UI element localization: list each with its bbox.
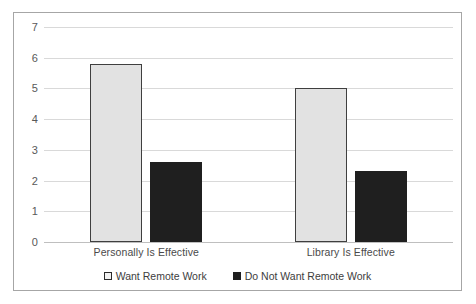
x-axis-category-labels: Personally Is EffectiveLibrary Is Effect… — [44, 246, 453, 264]
y-axis-tick-label: 2 — [32, 175, 38, 187]
y-axis-tick-label: 0 — [32, 236, 38, 248]
chart-legend: Want Remote WorkDo Not Want Remote Work — [14, 270, 461, 282]
plot-area: 01234567 — [44, 27, 453, 242]
bar-do-not-want-remote-work — [150, 162, 202, 242]
x-axis-category-label: Personally Is Effective — [94, 246, 199, 258]
y-axis-tick-label: 3 — [32, 144, 38, 156]
y-axis-tick-label: 1 — [32, 205, 38, 217]
legend-item[interactable]: Want Remote Work — [104, 270, 207, 282]
legend-label: Want Remote Work — [116, 270, 207, 282]
y-axis-tick-label: 7 — [32, 21, 38, 33]
y-axis-tick-label: 4 — [32, 113, 38, 125]
y-axis-tick-label: 5 — [32, 82, 38, 94]
bars-layer — [44, 27, 453, 242]
bar-want-remote-work — [295, 88, 347, 242]
y-axis-tick-label: 6 — [32, 52, 38, 64]
gridline — [44, 242, 453, 243]
hollow-square-icon — [104, 272, 112, 280]
legend-label: Do Not Want Remote Work — [245, 270, 372, 282]
legend-item[interactable]: Do Not Want Remote Work — [233, 270, 372, 282]
bar-want-remote-work — [90, 64, 142, 242]
bar-chart-figure: 01234567 Personally Is EffectiveLibrary … — [13, 12, 462, 291]
x-axis-category-label: Library Is Effective — [307, 246, 395, 258]
filled-square-icon — [233, 272, 241, 280]
bar-do-not-want-remote-work — [355, 171, 407, 242]
